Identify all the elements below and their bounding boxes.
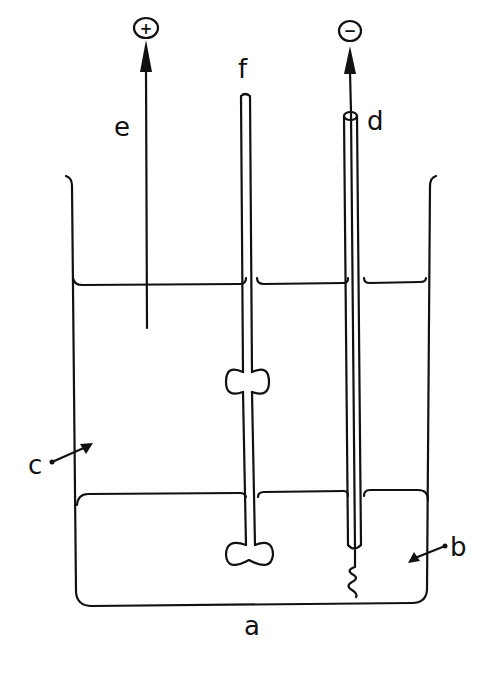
label-d: d — [367, 106, 384, 136]
label-b: b — [450, 532, 467, 562]
anode-wire: + — [134, 18, 158, 328]
arrow-up-icon — [140, 40, 152, 72]
paddle-upper-left — [226, 370, 243, 394]
label-e: e — [114, 112, 130, 142]
svg-text:−: − — [344, 22, 357, 40]
lower-liquid-layer — [77, 490, 428, 505]
paddle-upper-right — [252, 370, 269, 394]
svg-text:+: + — [140, 20, 153, 38]
coil-wire — [349, 550, 357, 597]
label-a: a — [244, 611, 260, 641]
label-f: f — [238, 54, 248, 84]
arrow-up-icon — [344, 46, 356, 74]
cathode-tube: − — [339, 21, 361, 597]
electrolysis-diagram: + − e f d c b a — [0, 0, 488, 674]
upper-liquid-surface — [73, 278, 426, 285]
stirrer — [226, 94, 273, 565]
label-c: c — [28, 450, 42, 480]
label-c-pointer — [50, 443, 94, 465]
